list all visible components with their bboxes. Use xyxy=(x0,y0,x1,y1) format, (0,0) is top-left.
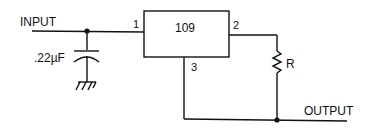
pin2-label: 2 xyxy=(233,20,239,31)
pin3-label: 3 xyxy=(191,62,197,73)
output-wire xyxy=(184,119,347,121)
input-label: INPUT xyxy=(20,16,56,28)
input-junction-dot xyxy=(84,28,89,33)
pin1-label: 1 xyxy=(133,19,139,30)
capacitor-value-label: .22µF xyxy=(34,52,65,64)
ic-label: 109 xyxy=(175,22,195,34)
output-junction-dot xyxy=(274,117,279,122)
resistor-zigzag xyxy=(273,51,281,73)
output-label: OUTPUT xyxy=(304,105,353,117)
resistor-label: R xyxy=(286,58,295,70)
